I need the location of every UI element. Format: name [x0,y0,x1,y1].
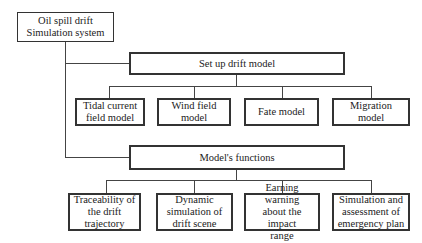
leaf-node-label: Migration model [336,100,406,124]
connector-drop [106,180,107,193]
leaf-node-label: Earning warning about the impact range [248,182,316,242]
connector-drop [194,86,195,98]
leaf-node-tidal-current-field-model: Tidal current field model [75,98,145,126]
leaf-node-traceability-of-drift-trajectory: Traceability of the drift trajectory [68,193,141,231]
branch-node-label: Set up drift model [199,58,275,70]
connector-to-setup [65,63,129,64]
connector-to-functions [65,157,129,158]
connector-drop [371,86,372,98]
branch-node-label: Model's functions [199,152,274,164]
connector-drop [194,180,195,193]
leaf-node-migration-model: Migration model [332,98,410,126]
connector-drop [109,86,110,98]
leaf-node-simulation-and-assessment-of-emergency-plan: Simulation and assessment of emergency p… [332,193,410,231]
leaf-node-label: Dynamic simulation of drift scene [167,194,223,230]
branch-node-models-functions: Model's functions [129,145,345,170]
branch-node-set-up-drift-model: Set up drift model [129,52,345,75]
root-node-label: Oil spill drift Simulation system [27,15,105,39]
leaf-node-wind-field-model: Wind field model [157,98,231,126]
leaf-node-label: Tidal current field model [83,100,137,124]
connector-trunk [65,42,66,158]
leaf-node-dynamic-simulation-of-drift-scene: Dynamic simulation of drift scene [156,193,233,231]
leaf-node-label: Simulation and assessment of emergency p… [338,194,405,230]
connector-setup-bus [109,86,371,87]
connector-drop [282,86,283,98]
connector-functions-down [236,170,237,180]
connector-drop [371,180,372,193]
connector-functions-bus [106,180,371,181]
leaf-node-fate-model: Fate model [244,98,319,126]
leaf-node-earning-warning-about-impact-range: Earning warning about the impact range [244,193,320,231]
leaf-node-label: Traceability of the drift trajectory [74,194,136,230]
connector-setup-down [236,75,237,86]
root-node-oil-spill-drift-simulation-system: Oil spill drift Simulation system [17,12,114,42]
leaf-node-label: Wind field model [161,100,227,124]
leaf-node-label: Fate model [258,106,305,118]
